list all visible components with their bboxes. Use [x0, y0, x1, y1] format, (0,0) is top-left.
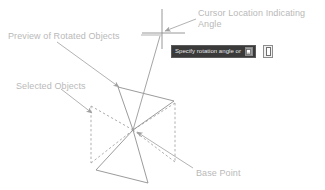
label-base-point: Base Point — [196, 168, 276, 179]
dynamic-input-prompt[interactable]: Specify rotation angle or — [171, 45, 256, 58]
leader-preview — [57, 35, 162, 87]
rotation-rubber-band — [133, 36, 160, 130]
preview-upper-triangle — [118, 87, 174, 130]
selected-edge-tl-base — [91, 106, 133, 130]
preview-lower-triangle — [96, 130, 148, 183]
leader-selected-line — [61, 89, 92, 113]
leader-cursor — [165, 19, 196, 31]
preview-rotated-shape — [96, 87, 174, 183]
selected-edge-bl-base — [91, 130, 133, 163]
expand-options-icon[interactable] — [245, 47, 253, 56]
prompt-label: Specify rotation angle or — [175, 48, 241, 55]
selected-edge-br-base — [133, 130, 175, 162]
selected-objects-shape — [91, 103, 175, 163]
keyboard-entry-icon — [266, 47, 271, 56]
leader-selected — [61, 89, 92, 113]
leader-cursor-line — [165, 19, 196, 31]
label-cursor-location: Cursor Location Indicating Angle — [198, 8, 320, 30]
rubber-band-line — [133, 36, 160, 130]
leader-base-point — [137, 132, 193, 168]
leader-base-point-line — [137, 132, 193, 168]
label-selected-objects: Selected Objects — [16, 81, 126, 92]
diagram-canvas: Cursor Location Indicating Angle Preview… — [0, 0, 325, 190]
label-preview-of-rotated-objects: Preview of Rotated Objects — [8, 31, 148, 42]
crosshair-cursor-icon — [142, 9, 185, 49]
dynamic-input-toggle-button[interactable] — [263, 45, 273, 58]
